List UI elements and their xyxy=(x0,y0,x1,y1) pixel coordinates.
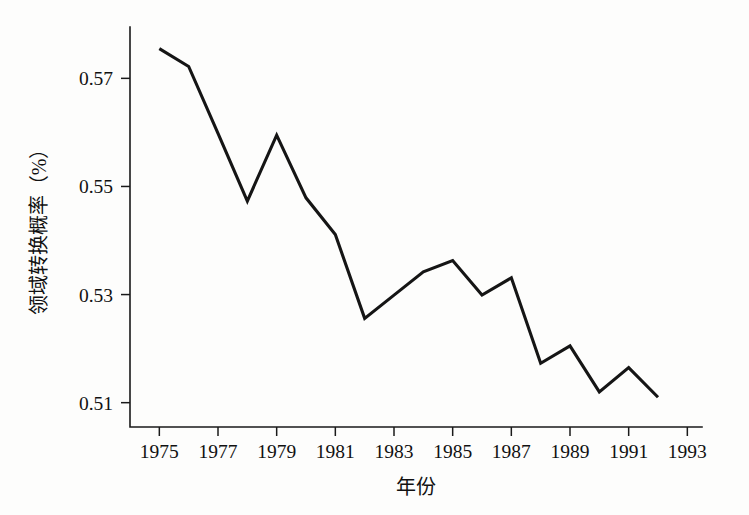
x-tick-label: 1989 xyxy=(551,441,590,462)
x-tick-label: 1991 xyxy=(609,441,648,462)
y-tick-label: 0.53 xyxy=(79,285,113,306)
chart-tick-marks xyxy=(121,78,687,436)
x-tick-label: 1975 xyxy=(140,441,179,462)
y-axis-title: 领域转换概率（%） xyxy=(28,139,50,316)
data-series-group xyxy=(159,49,658,398)
x-tick-label: 1993 xyxy=(668,441,707,462)
line-chart-plot: 0.510.530.550.57 19751977197919811983198… xyxy=(0,0,749,515)
chart-axes xyxy=(130,27,702,427)
x-tick-label: 1979 xyxy=(257,441,296,462)
chart-figure: 0.510.530.550.57 19751977197919811983198… xyxy=(0,0,749,515)
y-tick-label: 0.51 xyxy=(79,393,113,414)
x-tick-label: 1983 xyxy=(375,441,414,462)
x-tick-label: 1977 xyxy=(199,441,238,462)
axis-spine xyxy=(130,27,702,427)
x-axis-tick-labels: 1975197719791981198319851987198919911993 xyxy=(140,441,707,462)
data-line-series xyxy=(159,49,658,398)
x-tick-label: 1987 xyxy=(492,441,531,462)
y-tick-label: 0.55 xyxy=(79,176,113,197)
x-axis-title: 年份 xyxy=(396,476,436,498)
y-axis-tick-labels: 0.510.530.550.57 xyxy=(79,68,113,413)
x-tick-label: 1985 xyxy=(433,441,472,462)
x-tick-label: 1981 xyxy=(316,441,355,462)
y-tick-label: 0.57 xyxy=(79,68,113,89)
